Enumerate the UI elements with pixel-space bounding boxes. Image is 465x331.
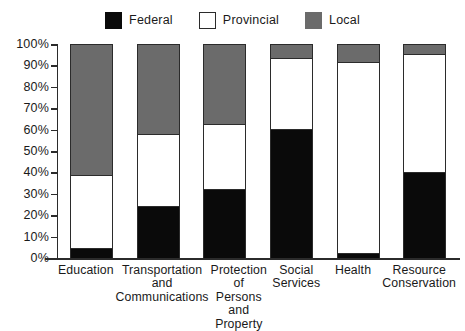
y-axis-tick-mark <box>51 130 58 132</box>
stacked-bar[interactable] <box>203 44 246 258</box>
x-axis-label: SocialServices <box>268 264 325 331</box>
legend-label-provincial: Provincial <box>223 13 279 27</box>
y-axis-tick-mark <box>51 237 58 239</box>
y-axis-tick-label: 70% <box>23 101 49 115</box>
stacked-bar[interactable] <box>137 44 180 258</box>
bar-segment-federal[interactable] <box>71 249 112 258</box>
y-axis-tick-label: 100% <box>16 37 49 51</box>
y-axis-tick-mark <box>51 108 58 110</box>
stacked-bar[interactable] <box>337 44 380 258</box>
legend-swatch-provincial-icon <box>199 12 216 29</box>
y-axis-tick-mark <box>51 151 58 153</box>
stacked-bar[interactable] <box>270 44 313 258</box>
bar-column[interactable] <box>325 44 392 258</box>
bar-column[interactable] <box>258 44 325 258</box>
bar-segment-provincial[interactable] <box>404 54 445 173</box>
stacked-bar[interactable] <box>70 44 113 258</box>
y-axis-tick-label: 90% <box>23 58 49 72</box>
bar-segment-federal[interactable] <box>138 207 179 258</box>
legend-swatch-federal-icon <box>105 12 122 29</box>
chart-legend: Federal Provincial Local <box>0 6 465 34</box>
bar-segment-local[interactable] <box>204 45 245 124</box>
legend-item-federal: Federal <box>105 12 173 29</box>
y-axis-tick-mark <box>51 44 58 46</box>
bar-segment-local[interactable] <box>338 45 379 62</box>
y-axis-tick-label: 20% <box>23 208 49 222</box>
legend-item-local: Local <box>305 12 360 29</box>
x-axis-line <box>45 258 460 260</box>
bar-segment-local[interactable] <box>71 45 112 175</box>
legend-swatch-local-icon <box>305 12 322 29</box>
y-axis-tick-label: 10% <box>23 230 49 244</box>
bar-segment-federal[interactable] <box>271 130 312 258</box>
y-axis-tick-mark <box>51 194 58 196</box>
x-axis-label: TransportationandCommunications <box>115 264 210 331</box>
bar-column[interactable] <box>125 44 192 258</box>
legend-label-federal: Federal <box>129 13 173 27</box>
bar-segment-local[interactable] <box>404 45 445 54</box>
y-axis-tick-mark <box>51 215 58 217</box>
y-axis-tick-mark <box>51 65 58 67</box>
y-axis-tick-mark <box>51 172 58 174</box>
y-axis-tick-label: 40% <box>23 165 49 179</box>
bar-group <box>58 44 458 258</box>
bar-segment-federal[interactable] <box>404 173 445 258</box>
bar-segment-local[interactable] <box>271 45 312 58</box>
bar-segment-local[interactable] <box>138 45 179 134</box>
y-axis-tick-label: 80% <box>23 80 49 94</box>
bar-column[interactable] <box>191 44 258 258</box>
y-axis-tick-label: 30% <box>23 187 49 201</box>
y-axis-tick-mark <box>51 87 58 89</box>
bar-column[interactable] <box>58 44 125 258</box>
plot-area: 0%10%20%30%40%50%60%70%80%90%100% <box>57 44 458 258</box>
bar-segment-federal[interactable] <box>204 190 245 258</box>
y-axis-tick-label: 60% <box>23 123 49 137</box>
x-axis-label: Education <box>57 264 115 331</box>
x-axis-labels: EducationTransportationandCommunications… <box>57 264 457 331</box>
bar-segment-provincial[interactable] <box>271 58 312 130</box>
bar-segment-provincial[interactable] <box>71 175 112 250</box>
x-axis-label: Health <box>325 264 382 331</box>
bar-segment-provincial[interactable] <box>338 62 379 254</box>
bar-column[interactable] <box>391 44 458 258</box>
bar-segment-provincial[interactable] <box>138 134 179 206</box>
bar-segment-provincial[interactable] <box>204 124 245 190</box>
stacked-bar[interactable] <box>403 44 446 258</box>
legend-item-provincial: Provincial <box>199 12 279 29</box>
legend-label-local: Local <box>329 13 360 27</box>
x-axis-label: ResourceConservation <box>381 264 457 331</box>
y-axis-tick-label: 50% <box>23 144 49 158</box>
x-axis-label: Protectionof PersonsandProperty <box>210 264 268 331</box>
